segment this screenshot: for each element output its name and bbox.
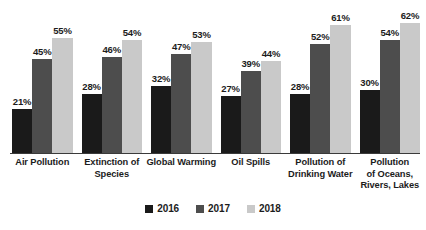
category-label-line: Air Pollution: [6, 157, 79, 169]
category-axis-labels: Air PollutionExtinction ofSpeciesGlobal …: [0, 157, 426, 202]
bar[interactable]: [221, 96, 241, 153]
category-label-line: Drinking Water: [284, 169, 357, 181]
legend-swatch-icon: [145, 205, 153, 213]
category-label-line: of Oceans,: [354, 169, 426, 181]
category-label-line: Rivers, Lakes: [354, 180, 426, 192]
bar[interactable]: [102, 57, 122, 153]
bar[interactable]: [380, 40, 400, 153]
bar-group: 21%45%55%: [12, 1, 73, 153]
category-label-line: Oil Spills: [215, 157, 288, 169]
category-label-line: Pollution of: [284, 157, 357, 169]
bar-column[interactable]: 32%: [151, 1, 171, 153]
bar-column[interactable]: 39%: [241, 1, 261, 153]
bar-group-bars: 28%52%61%: [290, 1, 351, 153]
bar-column[interactable]: 28%: [82, 1, 102, 153]
bar-group-bars: 30%54%62%: [360, 1, 421, 153]
bar[interactable]: [191, 42, 211, 153]
bar-column[interactable]: 62%: [400, 1, 420, 153]
bar[interactable]: [32, 59, 52, 153]
plot-area: 21%45%55%28%46%54%32%47%53%27%39%44%28%5…: [0, 0, 426, 154]
bar[interactable]: [261, 61, 281, 153]
bar-value-label: 27%: [221, 83, 239, 94]
category-label-line: Global Warming: [145, 157, 218, 169]
bar-value-label: 61%: [331, 12, 349, 23]
bar-value-label: 52%: [311, 31, 329, 42]
bar[interactable]: [330, 25, 350, 153]
bar-group-bars: 27%39%44%: [221, 1, 282, 153]
bar-group: 28%52%61%: [290, 1, 351, 153]
bar-group: 32%47%53%: [151, 1, 212, 153]
bar[interactable]: [290, 94, 310, 153]
bar[interactable]: [310, 44, 330, 153]
bar-value-label: 28%: [82, 81, 100, 92]
bar-column[interactable]: 53%: [191, 1, 211, 153]
bar-value-label: 46%: [103, 44, 121, 55]
category-label: Pollution ofDrinking Water: [284, 157, 357, 180]
bar[interactable]: [400, 23, 420, 153]
bar-value-label: 54%: [381, 27, 399, 38]
bar-group: 27%39%44%: [221, 1, 282, 153]
chart-page: 21%45%55%28%46%54%32%47%53%27%39%44%28%5…: [0, 0, 426, 230]
bar-value-label: 32%: [152, 73, 170, 84]
bar-value-label: 39%: [242, 58, 260, 69]
bar-column[interactable]: 45%: [32, 1, 52, 153]
bar-value-label: 30%: [360, 77, 378, 88]
bar[interactable]: [122, 40, 142, 153]
legend-item-2016[interactable]: 2016: [145, 203, 179, 214]
bar-value-label: 54%: [123, 27, 141, 38]
category-label: Extinction ofSpecies: [76, 157, 149, 180]
category-label: Pollutionof Oceans,Rivers, Lakes: [354, 157, 426, 192]
bar-column[interactable]: 30%: [360, 1, 380, 153]
legend-label: 2016: [157, 203, 179, 214]
bar-group: 30%54%62%: [360, 1, 421, 153]
bar-group: 28%46%54%: [82, 1, 143, 153]
bar-column[interactable]: 47%: [171, 1, 191, 153]
bar-value-label: 21%: [13, 96, 31, 107]
legend-swatch-icon: [196, 205, 204, 213]
bar-column[interactable]: 46%: [102, 1, 122, 153]
bar-value-label: 62%: [401, 10, 419, 21]
category-label-line: Extinction of: [76, 157, 149, 169]
bar-column[interactable]: 27%: [221, 1, 241, 153]
bar[interactable]: [360, 90, 380, 153]
category-label-line: Pollution: [354, 157, 426, 169]
bar-column[interactable]: 61%: [330, 1, 350, 153]
x-axis-baseline: [10, 153, 420, 154]
bar[interactable]: [82, 94, 102, 153]
bar-column[interactable]: 52%: [310, 1, 330, 153]
category-label-line: Species: [76, 169, 149, 181]
bar-value-label: 55%: [53, 25, 71, 36]
legend-item-2018[interactable]: 2018: [247, 203, 281, 214]
bar-group-bars: 32%47%53%: [151, 1, 212, 153]
bar-column[interactable]: 44%: [261, 1, 281, 153]
bar-column[interactable]: 55%: [52, 1, 72, 153]
bar[interactable]: [171, 54, 191, 153]
bar-group-bars: 21%45%55%: [12, 1, 73, 153]
bar-value-label: 53%: [192, 29, 210, 40]
legend-item-2017[interactable]: 2017: [196, 203, 230, 214]
legend-swatch-icon: [247, 205, 255, 213]
legend-label: 2017: [208, 203, 230, 214]
category-label: Global Warming: [145, 157, 218, 169]
legend-label: 2018: [259, 203, 281, 214]
bar[interactable]: [151, 86, 171, 153]
bar-column[interactable]: 28%: [290, 1, 310, 153]
chart-legend: 201620172018: [0, 203, 426, 214]
category-label: Oil Spills: [215, 157, 288, 169]
bar[interactable]: [12, 109, 32, 153]
bar-value-label: 28%: [291, 81, 309, 92]
bar[interactable]: [52, 38, 72, 153]
category-label: Air Pollution: [6, 157, 79, 169]
bar-value-label: 44%: [262, 48, 280, 59]
bar-column[interactable]: 54%: [380, 1, 400, 153]
bar-column[interactable]: 21%: [12, 1, 32, 153]
bar-value-label: 47%: [172, 41, 190, 52]
bar[interactable]: [241, 71, 261, 153]
bar-group-bars: 28%46%54%: [82, 1, 143, 153]
bar-value-label: 45%: [33, 46, 51, 57]
bar-column[interactable]: 54%: [122, 1, 142, 153]
